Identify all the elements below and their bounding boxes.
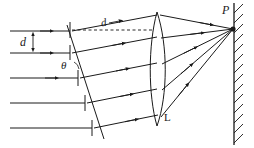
converged-ray-4-arrow [181, 64, 192, 73]
diffracted-rays-group [72, 15, 158, 128]
converged-ray-4 [162, 29, 233, 90]
converged-ray-1-arrow [199, 22, 212, 25]
diffracted-ray-4-arrow [120, 94, 132, 96]
focal-point-marker [230, 26, 235, 31]
converged-ray-3 [162, 29, 233, 64]
converging-lens [150, 12, 165, 126]
diffracted-ray-3-arrow [116, 69, 128, 71]
figure-canvas [0, 0, 254, 148]
diffracted-ray-2-arrow [112, 43, 124, 45]
lens-left-surface [150, 12, 157, 126]
diffraction-angle-label: θ [61, 60, 66, 71]
lens-label: L [164, 112, 171, 123]
screen [234, 3, 243, 145]
converged-ray-5 [161, 29, 233, 117]
screen-hatching [234, 4, 243, 143]
lens-right-surface [157, 12, 165, 126]
theta-angle-arc [74, 62, 79, 69]
grating-slit-ticks [70, 22, 92, 136]
converged-ray-1 [160, 15, 233, 29]
converged-ray-5-arrow [178, 84, 188, 96]
focal-point-label: P [222, 4, 229, 16]
diffracted-ray-1 [72, 15, 157, 31]
converged-rays-group [160, 15, 233, 117]
diffracted-ray-5-arrow [125, 119, 137, 121]
converged-ray-3-arrow [184, 47, 196, 53]
diffraction-grating-figure: d d θ L P [0, 0, 254, 148]
slit-separation-label: d [20, 36, 26, 48]
converged-ray-2-arrow [190, 33, 203, 35]
grating-plane-line [67, 25, 104, 139]
path-difference-label: d [100, 17, 107, 29]
